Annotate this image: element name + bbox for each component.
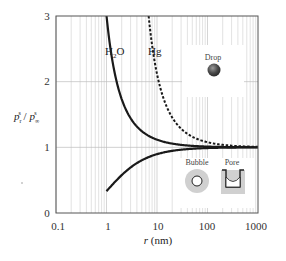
kelvin-chart: 0 1 2 3 0.1 1 10 100 1000 r (nm) prs / p… — [0, 0, 286, 261]
drop-label: Drop — [205, 53, 221, 62]
pore-label: Pore — [225, 158, 240, 167]
x-tick-10: 10 — [153, 220, 165, 232]
x-tick-1000: 1000 — [245, 220, 268, 232]
hg-label: Hg — [148, 45, 162, 57]
x-tick-100: 100 — [199, 220, 216, 232]
x-tick-0.1: 0.1 — [51, 220, 65, 232]
y-tick-3: 3 — [44, 10, 50, 22]
stray-dot — [21, 182, 23, 184]
y-tick-1: 1 — [44, 141, 50, 153]
x-axis-label: r (nm) — [144, 234, 173, 247]
drop-icon — [208, 64, 221, 77]
y-tick-2: 2 — [44, 75, 50, 87]
x-tick-1: 1 — [105, 220, 111, 232]
y-axis-label: prs / p∞s — [13, 110, 39, 124]
y-tick-0: 0 — [44, 207, 50, 219]
bubble-label: Bubble — [185, 158, 209, 167]
pore-icon — [221, 170, 245, 194]
